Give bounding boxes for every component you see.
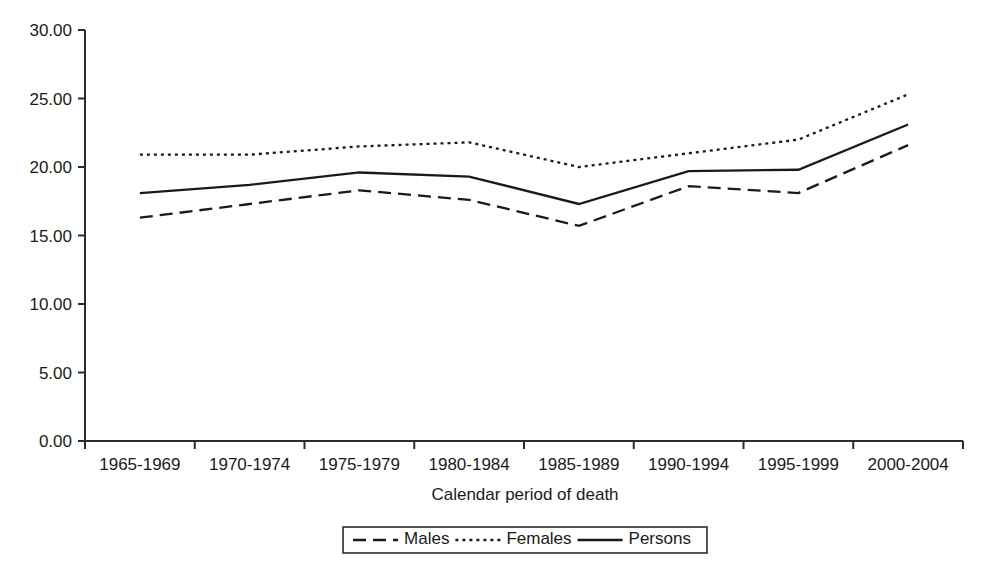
chart-canvas: 0.005.0010.0015.0020.0025.0030.00 1965-1… [0,0,991,584]
y-axis: 0.005.0010.0015.0020.0025.0030.00 [29,21,85,451]
series-line-males [140,145,908,226]
legend-label-persons: Persons [629,529,691,548]
legend-label-males: Males [404,529,449,548]
y-tick-label: 20.00 [29,158,72,177]
x-tick-label: 1980-1984 [428,455,509,474]
x-tick-label: 1975-1979 [319,455,400,474]
series-line-females [140,94,908,167]
x-tick-label: 1970-1974 [209,455,290,474]
x-tick-label: 1965-1969 [99,455,180,474]
x-tick-label: 1995-1999 [758,455,839,474]
x-tick-label: 1990-1994 [648,455,729,474]
chart-legend: MalesFemalesPersons [343,527,707,553]
y-tick-label: 10.00 [29,295,72,314]
x-axis-title: Calendar period of death [431,485,618,504]
x-axis: 1965-19691970-19741975-19791980-19841985… [85,441,963,474]
y-tick-label: 5.00 [39,364,72,383]
x-tick-label: 1985-1989 [538,455,619,474]
y-tick-label: 25.00 [29,90,72,109]
line-chart: 0.005.0010.0015.0020.0025.0030.00 1965-1… [0,0,991,584]
y-tick-label: 15.00 [29,227,72,246]
x-tick-label: 2000-2004 [867,455,948,474]
y-tick-label: 30.00 [29,21,72,40]
legend-label-females: Females [506,529,571,548]
y-tick-label: 0.00 [39,432,72,451]
series-lines [140,94,908,226]
